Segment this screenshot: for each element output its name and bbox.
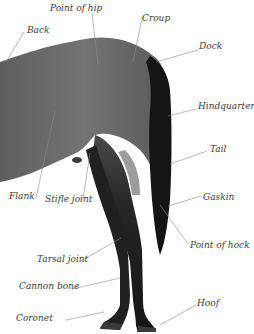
label-coronet: Coronet (16, 314, 53, 323)
label-hoof: Hoof (197, 299, 219, 308)
label-hindquarters: Hindquarters (198, 102, 254, 111)
label-point-of-hock: Point of hock (190, 241, 250, 250)
label-tarsal-joint: Tarsal joint (37, 255, 88, 264)
label-back: Back (27, 26, 49, 35)
horse-body (0, 37, 168, 200)
label-cannon-bone: Cannon bone (19, 282, 79, 291)
label-croup: Croup (142, 14, 170, 23)
label-gaskin: Gaskin (203, 193, 234, 202)
label-flank: Flank (9, 192, 35, 201)
horse-anatomy-diagram: Back Point of hip Croup Dock Hindquarter… (0, 0, 254, 334)
label-stifle-joint: Stifle joint (45, 195, 92, 204)
label-dock: Dock (199, 42, 222, 51)
label-tail: Tail (210, 145, 226, 154)
label-point-of-hip: Point of hip (50, 4, 102, 13)
